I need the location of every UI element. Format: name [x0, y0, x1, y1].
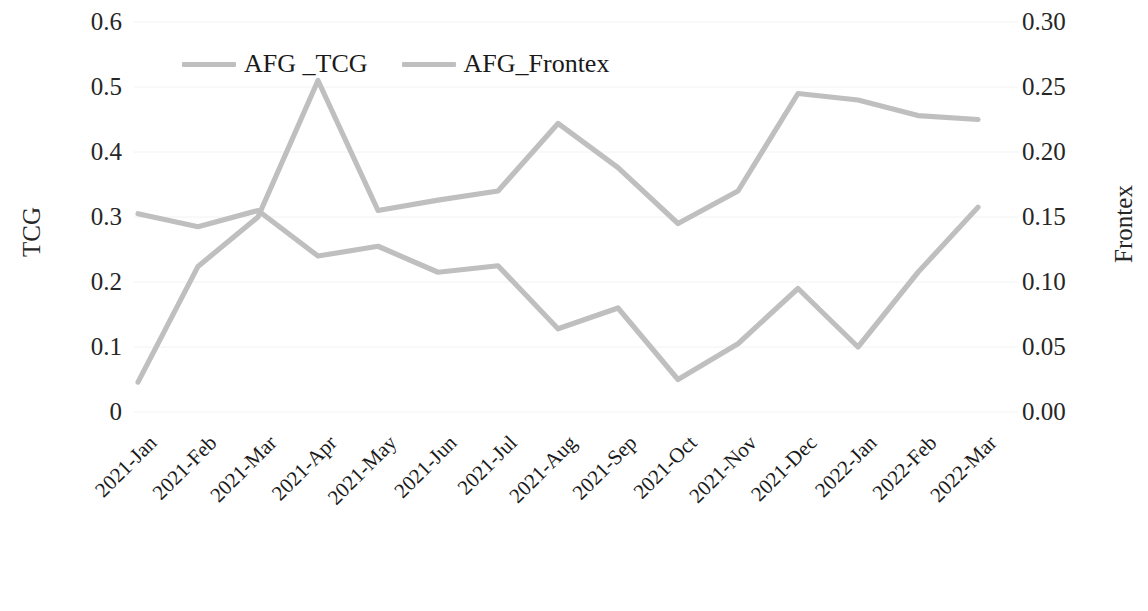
plot-area	[0, 0, 1148, 611]
series-line-1	[138, 81, 978, 383]
line-chart: TCG Frontex 00.10.20.30.40.50.6 0.000.05…	[0, 0, 1148, 611]
series-line-0	[138, 207, 978, 379]
series-layer	[138, 81, 978, 383]
